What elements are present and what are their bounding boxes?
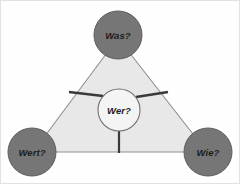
- node-was[interactable]: Was?: [94, 11, 142, 59]
- node-wer-label: Wer?: [107, 105, 131, 116]
- node-wer[interactable]: Wer?: [98, 89, 140, 131]
- node-was-label: Was?: [105, 30, 131, 41]
- node-wie-label: Wie?: [196, 147, 219, 158]
- node-wert[interactable]: Wert?: [8, 128, 56, 176]
- node-wert-label: Wert?: [18, 147, 45, 158]
- triangle-diagram: Wer? Was? Wert? Wie?: [0, 0, 240, 184]
- diagram-canvas: Wer? Was? Wert? Wie?: [0, 0, 240, 184]
- node-wie[interactable]: Wie?: [184, 128, 232, 176]
